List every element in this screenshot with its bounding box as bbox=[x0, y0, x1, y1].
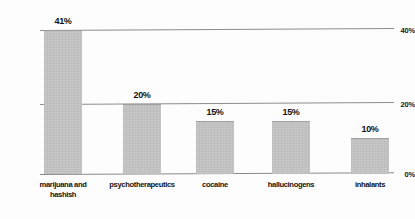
category-label-line-1: cocaine bbox=[202, 180, 228, 189]
value-label-cocaine: 15% bbox=[185, 107, 245, 117]
category-label-marijuana-and-hashish: marijuana and hashish bbox=[29, 180, 97, 200]
y-axis-tick-label-40: 40% bbox=[377, 26, 415, 35]
value-label-marijuana-and-hashish: 41% bbox=[33, 16, 93, 26]
category-label-hallucinogens: hallucinogens bbox=[256, 180, 326, 190]
bar-marijuana-and-hashish bbox=[44, 30, 82, 174]
category-label-inhalants: inhalants bbox=[341, 180, 399, 190]
bar-chart: 40% 20% 0% 41% 20% 15% 15% 10% marijuana… bbox=[0, 0, 415, 219]
value-label-psychotherapeutics: 20% bbox=[112, 90, 172, 100]
y-axis-tick-label-20: 20% bbox=[377, 100, 415, 109]
bar-inhalants bbox=[351, 138, 389, 174]
gridline-20-percent bbox=[40, 102, 394, 105]
category-label-psychotherapeutics: psychotherapeutics bbox=[104, 180, 180, 190]
gridline-40-percent bbox=[40, 28, 394, 31]
category-label-line-1: psychotherapeutics bbox=[109, 180, 174, 189]
bar-hallucinogens bbox=[272, 121, 310, 174]
category-label-line-1: marijuana and bbox=[40, 180, 87, 189]
value-label-inhalants: 10% bbox=[340, 124, 400, 134]
category-label-line-1: inhalants bbox=[355, 180, 385, 189]
category-label-line-2: hashish bbox=[29, 190, 97, 200]
bar-cocaine bbox=[196, 121, 234, 174]
value-label-hallucinogens: 15% bbox=[261, 107, 321, 117]
category-label-cocaine: cocaine bbox=[185, 180, 245, 190]
plot-area: 40% 20% 0% 41% 20% 15% 15% 10% marijuana… bbox=[0, 0, 415, 219]
bar-psychotherapeutics bbox=[123, 104, 161, 174]
category-label-line-1: hallucinogens bbox=[268, 180, 315, 189]
